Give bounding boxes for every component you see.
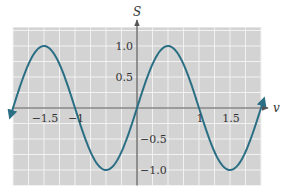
x-tick-label: 1 [197,112,204,125]
x-tick-label: 1.5 [222,112,240,125]
y-tick-label: −0.5 [140,133,167,146]
y-tick-label: 1.0 [116,40,134,53]
y-axis-label: S [133,5,141,19]
y-tick-label: 0.5 [116,71,134,84]
y-tick-label: −1.0 [140,164,167,177]
x-axis-label: v [273,101,280,115]
x-tick-label: −1.5 [32,112,59,125]
x-tick-label: −1 [68,112,84,125]
sine-chart: −1.5−111.51.00.5−0.5−1.0 v S [0,0,286,194]
